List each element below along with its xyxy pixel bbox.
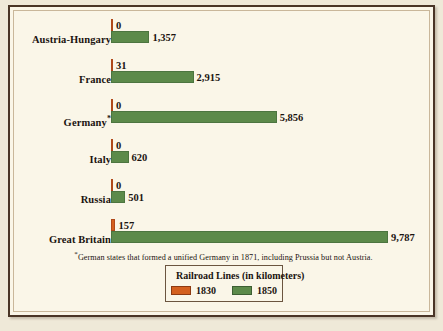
bar-group: 312,915 bbox=[111, 59, 194, 83]
bar-value-1830: 0 bbox=[116, 140, 121, 151]
legend-swatch-1830 bbox=[171, 286, 191, 295]
legend-item: 1830 bbox=[171, 285, 216, 296]
bar-value-1830: 31 bbox=[116, 60, 127, 71]
bar-group: 05,856 bbox=[111, 99, 277, 123]
bar-1830: 0 bbox=[111, 179, 113, 191]
bar-1850: 2,915 bbox=[111, 71, 194, 83]
chart-frame: Austria-Hungary01,357France312,915German… bbox=[8, 5, 435, 317]
chart-figure: Austria-Hungary01,357France312,915German… bbox=[0, 0, 443, 331]
category-label: Russia bbox=[0, 194, 111, 205]
bar-1850: 501 bbox=[111, 191, 125, 203]
bar-1850: 5,856 bbox=[111, 111, 277, 123]
bar-value-1850: 9,787 bbox=[391, 232, 415, 243]
category-label: France bbox=[0, 74, 111, 85]
bar-value-1830: 157 bbox=[118, 220, 134, 231]
bar-1830: 0 bbox=[111, 139, 113, 151]
bar-group: 01,357 bbox=[111, 19, 149, 43]
bar-1850: 9,787 bbox=[111, 231, 388, 243]
bar-value-1850: 1,357 bbox=[152, 32, 176, 43]
category-label: Italy bbox=[0, 154, 111, 165]
legend-title: Railroad Lines (in kilometers) bbox=[176, 270, 272, 281]
category-label: Austria-Hungary bbox=[0, 34, 111, 45]
chart-row: France312,915 bbox=[10, 59, 437, 89]
bar-1850: 620 bbox=[111, 151, 129, 163]
legend-swatch-1850 bbox=[232, 286, 252, 295]
bar-value-1830: 0 bbox=[116, 20, 121, 31]
bar-1830: 157 bbox=[111, 219, 115, 231]
bar-group: 0620 bbox=[111, 139, 129, 163]
category-label: Germany* bbox=[0, 114, 111, 128]
bar-1830: 0 bbox=[111, 99, 113, 111]
legend-items: 18301850 bbox=[176, 285, 272, 296]
bar-group: 0501 bbox=[111, 179, 125, 203]
chart-row: Great Britain1579,787 bbox=[10, 219, 437, 249]
bar-group: 1579,787 bbox=[111, 219, 388, 243]
bar-1830: 31 bbox=[111, 59, 113, 71]
category-label: Great Britain bbox=[0, 234, 111, 245]
legend-label-1850: 1850 bbox=[257, 285, 277, 296]
chart-row: Russia0501 bbox=[10, 179, 437, 209]
bar-value-1850: 2,915 bbox=[197, 72, 221, 83]
chart-row: Austria-Hungary01,357 bbox=[10, 19, 437, 49]
chart-row: Italy0620 bbox=[10, 139, 437, 169]
bar-value-1850: 5,856 bbox=[280, 112, 304, 123]
chart-row: Germany*05,856 bbox=[10, 99, 437, 129]
bar-value-1850: 501 bbox=[128, 192, 144, 203]
chart-footnote: *German states that formed a unified Ger… bbox=[10, 250, 437, 262]
bar-value-1830: 0 bbox=[116, 180, 121, 191]
bar-1830: 0 bbox=[111, 19, 113, 31]
bar-value-1830: 0 bbox=[116, 100, 121, 111]
footnote-text: German states that formed a unified Germ… bbox=[78, 253, 373, 262]
chart-legend: Railroad Lines (in kilometers) 18301850 bbox=[165, 265, 283, 302]
legend-item: 1850 bbox=[232, 285, 277, 296]
bar-1850: 1,357 bbox=[111, 31, 149, 43]
bar-value-1850: 620 bbox=[132, 152, 148, 163]
legend-label-1830: 1830 bbox=[196, 285, 216, 296]
